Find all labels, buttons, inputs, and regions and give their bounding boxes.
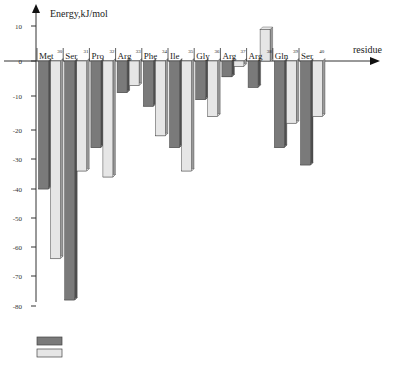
category-number: 32 <box>110 49 116 54</box>
bar-ile35-series1 <box>170 61 180 147</box>
category-label: Ser <box>65 51 77 61</box>
y-tick-label: -40 <box>13 186 23 194</box>
bar-side <box>296 59 299 124</box>
bar-arg37-series1 <box>222 61 232 77</box>
category-number: 40 <box>319 49 325 54</box>
y-tick-label: -30 <box>13 156 23 164</box>
bar-side <box>258 59 261 88</box>
bar-gly36-series2 <box>208 61 218 116</box>
category-label: Phe <box>144 51 158 61</box>
category-number: 37 <box>241 49 247 54</box>
bar-ile35-series2 <box>182 61 192 171</box>
bar-gln39-series2 <box>286 61 296 123</box>
legend <box>37 337 62 357</box>
y-tick-label: -10 <box>13 93 23 101</box>
y-axis-arrow <box>32 4 40 13</box>
category-number: 36 <box>214 49 220 54</box>
bar-met30-series2 <box>51 61 61 259</box>
energy-bar-chart: Energy,kJ/mol residue 100-10-20-30-40-50… <box>0 0 400 373</box>
category-label: Arg <box>249 51 263 61</box>
category-number: 35 <box>188 49 194 54</box>
bar-side <box>61 59 64 259</box>
x-axis-arrow <box>370 57 380 65</box>
bar-arg33-series1 <box>117 61 127 93</box>
bar-arg37-series2 <box>234 61 244 66</box>
bar-pro32-series2 <box>103 61 113 177</box>
y-ticks: 100-10-20-30-40-50-60-70-80 <box>13 23 36 311</box>
category-number: 39 <box>293 49 299 54</box>
category-number: 34 <box>162 49 168 54</box>
bar-pro32-series1 <box>91 61 101 147</box>
category-label: Arg <box>222 51 236 61</box>
bar-side <box>270 27 273 61</box>
category-label: Ser <box>301 51 313 61</box>
category-label: Arg <box>118 51 132 61</box>
category-label: Gly <box>196 51 210 61</box>
bar-ser40-series1 <box>301 61 311 165</box>
category-label: Gln <box>275 51 289 61</box>
bars <box>39 27 326 300</box>
bar-side <box>218 59 221 117</box>
category-label: Ile <box>170 51 180 61</box>
category-labels: Met30Ser31Pro32Arg33Phe34Ile35Gly36Arg37… <box>37 48 325 61</box>
bar-side <box>139 59 142 86</box>
legend-swatch-series2 <box>37 349 62 357</box>
bar-ser31-series1 <box>65 61 75 300</box>
y-tick-label: -50 <box>13 215 23 223</box>
legend-swatch-series1 <box>37 337 62 345</box>
category-number: 31 <box>83 49 89 54</box>
bar-phe34-series1 <box>143 61 153 106</box>
bar-cap <box>260 27 273 30</box>
y-tick-label: 0 <box>19 58 23 66</box>
bar-side <box>323 59 326 117</box>
category-number: 38 <box>267 49 273 54</box>
bar-ser31-series2 <box>77 61 87 171</box>
bar-side <box>165 59 168 136</box>
bar-arg38-series1 <box>248 61 258 87</box>
y-tick-label: -70 <box>13 273 23 281</box>
bar-ser40-series2 <box>313 61 323 116</box>
category-label: Pro <box>91 51 104 61</box>
y-tick-label: -60 <box>13 244 23 252</box>
x-axis-title: residue <box>353 44 382 55</box>
y-tick-label: -20 <box>13 127 23 135</box>
bar-met30-series1 <box>39 61 49 189</box>
y-axis-title: Energy,kJ/mol <box>50 8 108 19</box>
bar-side <box>87 59 90 172</box>
bar-gln39-series1 <box>274 61 284 147</box>
bar-gly36-series1 <box>196 61 206 99</box>
bar-phe34-series2 <box>155 61 165 136</box>
y-tick-label: 10 <box>15 23 23 31</box>
category-number: 33 <box>136 49 142 54</box>
category-label: Met <box>39 51 54 61</box>
bar-arg33-series2 <box>129 61 139 86</box>
y-tick-label: -80 <box>13 303 23 311</box>
category-number: 30 <box>57 49 63 54</box>
bar-side <box>192 59 195 172</box>
bar-side <box>113 59 116 178</box>
